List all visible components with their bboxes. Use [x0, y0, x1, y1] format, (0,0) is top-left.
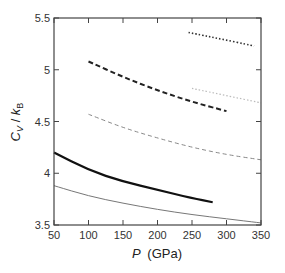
series-dashed-thick-dark [89, 61, 227, 111]
x-tick-label: 100 [79, 229, 97, 241]
series-solid-thick-dark [54, 153, 213, 203]
series-dotted-light [192, 88, 261, 102]
chart: 501001502002503003503.544.555.5 P (GPa) … [0, 0, 285, 273]
x-tick-label: 300 [217, 229, 235, 241]
y-label-sep: / [8, 115, 23, 126]
series-solid-thin-gray [54, 186, 261, 223]
y-tick-label: 3.5 [35, 219, 50, 231]
y-tick-label: 4.5 [35, 116, 50, 128]
y-tick-label: 4 [44, 167, 50, 179]
x-axis-label: P (GPa) [132, 246, 182, 261]
y-axis-label: CV / kB [8, 103, 25, 142]
series-dotted-dark [189, 32, 255, 45]
x-axis-label-var: P [132, 246, 141, 261]
x-tick-label: 150 [114, 229, 132, 241]
x-tick-label: 250 [183, 229, 201, 241]
y-tick-label: 5 [44, 64, 50, 76]
tick-labels: 501001502002503003503.544.555.5 [35, 12, 270, 241]
axis-ticks [54, 18, 261, 225]
y-label-b: B [15, 103, 25, 109]
plot-frame [54, 18, 261, 225]
x-axis-label-unit: (GPa) [147, 246, 182, 261]
x-tick-label: 200 [148, 229, 166, 241]
series-lines [54, 32, 261, 222]
series-dashed-thin-gray [89, 114, 262, 160]
y-tick-label: 5.5 [35, 12, 50, 24]
x-tick-label: 350 [252, 229, 270, 241]
